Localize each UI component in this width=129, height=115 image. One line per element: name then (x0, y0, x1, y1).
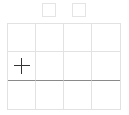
option-box-1[interactable] (42, 3, 56, 17)
option-box-2[interactable] (72, 3, 86, 17)
canvas (0, 0, 129, 115)
grid-cell-r2-c3[interactable] (64, 52, 92, 80)
crosshair-plus-icon (14, 58, 30, 74)
grid-cell-r1-c4[interactable] (92, 24, 120, 52)
grid-cell-r1-c1[interactable] (8, 24, 36, 52)
grid-cell-r3-c3[interactable] (64, 81, 92, 109)
grid-cell-r3-c1[interactable] (8, 81, 36, 109)
grid-cell-r2-c1[interactable] (8, 52, 36, 80)
grid-cell-r3-c2[interactable] (36, 81, 64, 109)
grid-cell-r1-c3[interactable] (64, 24, 92, 52)
grid (7, 23, 121, 110)
grid-cell-r1-c2[interactable] (36, 24, 64, 52)
grid-cell-r2-c2[interactable] (36, 52, 64, 80)
grid-cell-r2-c4[interactable] (92, 52, 120, 80)
grid-cell-r3-c4[interactable] (92, 81, 120, 109)
